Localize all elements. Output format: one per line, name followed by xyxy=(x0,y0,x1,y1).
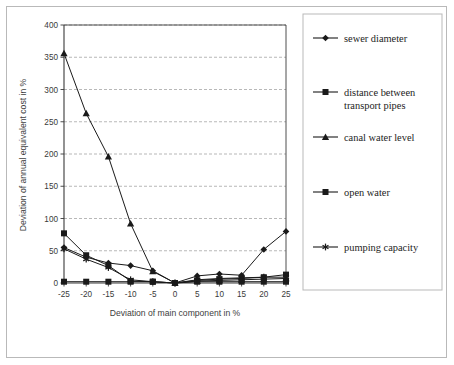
legend-label: distance between xyxy=(344,87,416,98)
legend-marker-square-icon xyxy=(323,189,329,195)
chart-legend: sewer diameterdistance betweentransport … xyxy=(0,0,454,365)
legend-label: pumping capacity xyxy=(344,242,419,253)
legend-label: open water xyxy=(344,187,390,198)
legend-label-line2: transport pipes xyxy=(344,100,405,111)
legend-label: sewer diameter xyxy=(344,33,408,44)
chart-figure: 050100150200250300350400-25-20-15-10-505… xyxy=(0,0,454,365)
legend-label: canal water level xyxy=(344,132,414,143)
legend-marker-square-icon xyxy=(323,89,329,95)
